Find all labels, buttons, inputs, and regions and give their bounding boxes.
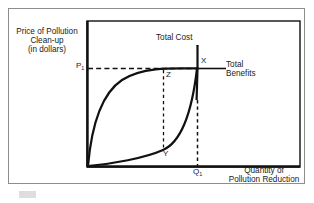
total-benefits-curve <box>88 68 198 166</box>
point-y-label: Y <box>163 150 168 159</box>
point-x-label: X <box>201 57 206 66</box>
total-benefits-label: Total Benefits <box>226 60 256 78</box>
total-cost-steep-tail <box>197 69 198 101</box>
figure-root: Price of Pollution Clean-up (in dollars)… <box>0 0 314 203</box>
x-axis-tick-label: Q1 <box>193 168 202 177</box>
total-cost-curve <box>88 69 197 167</box>
x-axis-tick-subscript: 1 <box>199 171 202 177</box>
y-axis-title: Price of Pollution Clean-up (in dollars) <box>10 27 84 55</box>
x-axis-title: Quantity of Pollution Reduction <box>218 166 310 184</box>
point-z-label: Z <box>166 71 171 80</box>
y-axis-tick-subscript: 1 <box>81 65 84 71</box>
y-axis-tick-label: P1 <box>76 62 84 71</box>
cropped-caption-artifact <box>19 191 36 198</box>
total-cost-label: Total Cost <box>156 33 192 42</box>
